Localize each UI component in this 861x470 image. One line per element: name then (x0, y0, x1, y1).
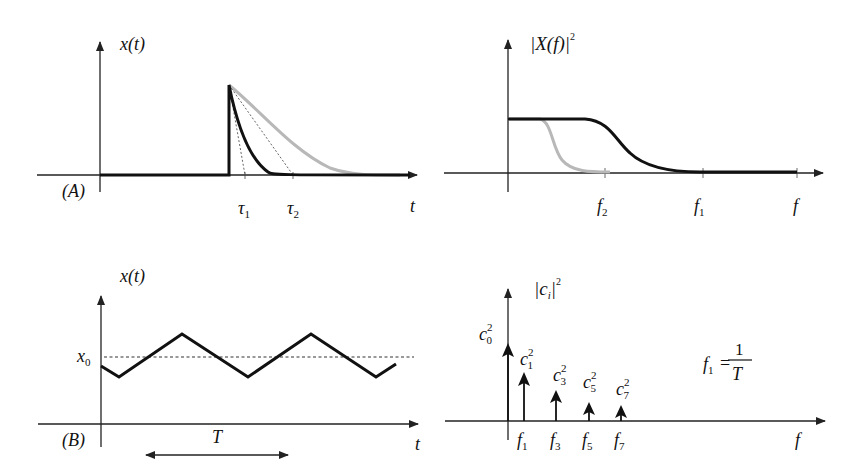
panel-a-time: x(t) t (A) τ1 τ2 (37, 34, 417, 220)
panel-label-a: (A) (62, 181, 85, 202)
freq-label-f1: f1 (517, 430, 528, 452)
svg-text:f1: f1 (703, 354, 714, 376)
tangent-tau2 (229, 85, 293, 175)
coeff-label-c7: c27 (616, 376, 630, 401)
spectral-line-c7 (615, 405, 627, 421)
panel-a-frequency: |X(f)|2 f2 f1 f (444, 31, 823, 218)
spectrum-curve-wide (508, 119, 797, 172)
y-axis-label: x(t) (119, 34, 145, 55)
x-axis-label: f (793, 196, 801, 216)
tick-label-f1: f1 (694, 196, 705, 218)
decay-curve-slow (229, 85, 400, 175)
panel-b-frequency: |ci|2 c20 c21 c23 c25 c27 f1 f3 f5 f7 f … (445, 276, 825, 452)
spectral-line-c1 (518, 372, 530, 421)
spectral-line-c5 (583, 402, 595, 421)
panel-label-b: (B) (62, 430, 85, 451)
decay-curve-fast (100, 85, 410, 175)
x-axis-label: t (410, 196, 416, 216)
x-axis-label: f (795, 430, 803, 450)
svg-text:1: 1 (735, 340, 744, 359)
panel-b-time: x(t) x0 T (B) t (38, 266, 421, 455)
svg-text:=: = (720, 353, 730, 373)
spectral-line-c0 (502, 343, 514, 421)
x-axis-label: t (415, 434, 421, 454)
coeff-label-c0: c20 (479, 321, 493, 346)
fundamental-frequency-formula: f1 = 1 T (703, 340, 752, 384)
y-axis-label: |ci|2 (534, 276, 561, 301)
spectral-line-c3 (550, 390, 562, 421)
spectrum-curve-narrow (508, 119, 610, 172)
freq-label-f3: f3 (550, 430, 561, 452)
mean-level-label: x0 (76, 346, 91, 368)
coeff-label-c1: c21 (520, 346, 534, 371)
y-axis-label: x(t) (119, 266, 145, 287)
freq-label-f5: f5 (582, 430, 593, 452)
coeff-label-c5: c25 (583, 369, 597, 394)
figure-canvas: x(t) t (A) τ1 τ2 |X(f)|2 f2 f1 f x(t) x0… (0, 0, 861, 470)
tick-label-f2: f2 (597, 196, 608, 218)
svg-text:T: T (732, 364, 744, 384)
freq-label-f7: f7 (614, 430, 625, 452)
triangle-wave (101, 334, 396, 377)
period-label: T (212, 427, 224, 447)
tick-label-tau2: τ2 (287, 198, 299, 220)
coeff-label-c3: c23 (553, 362, 567, 387)
tick-label-tau1: τ1 (238, 198, 250, 220)
y-axis-label: |X(f)|2 (530, 31, 575, 55)
